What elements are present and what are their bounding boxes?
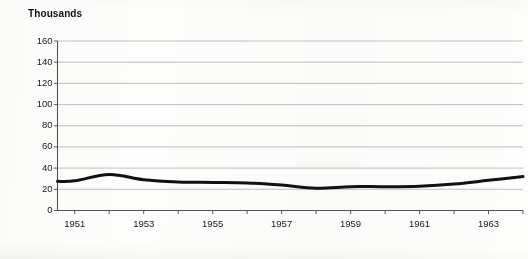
y-tick-label: 0 <box>19 204 53 215</box>
y-tick-label: 120 <box>19 77 53 88</box>
x-tick-label: 1953 <box>124 218 164 229</box>
x-tick-label: 1955 <box>193 218 233 229</box>
y-tick-label: 160 <box>19 35 53 46</box>
y-tick-label: 40 <box>19 162 53 173</box>
x-tick-label: 1959 <box>331 218 371 229</box>
y-tick-label: 80 <box>19 119 53 130</box>
y-tick-label: 140 <box>19 56 53 67</box>
x-tick-label: 1961 <box>400 218 440 229</box>
y-tick-label: 60 <box>19 140 53 151</box>
x-tick-label: 1957 <box>262 218 302 229</box>
y-tick-label: 20 <box>19 183 53 194</box>
y-tick-label: 100 <box>19 98 53 109</box>
data-series-line <box>58 174 524 188</box>
x-tick-label: 1963 <box>469 218 509 229</box>
chart-figure: Thousands 020406080100120140160 19511953… <box>0 0 528 259</box>
x-tick-label: 1951 <box>55 218 95 229</box>
